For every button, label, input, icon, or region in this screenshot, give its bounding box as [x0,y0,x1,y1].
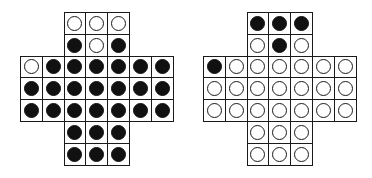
filled-peg-icon [89,81,104,96]
filled-peg-icon [24,103,39,118]
filled-peg-icon [111,103,126,118]
filled-peg-icon [111,147,126,162]
board-cell [151,77,174,100]
board-cell [247,143,270,166]
empty-hole-icon [229,59,244,74]
empty-hole-icon [250,125,265,140]
empty-hole-icon [338,81,353,96]
board-cell [85,34,108,57]
board-cell [268,121,291,144]
empty-hole-icon [294,38,309,53]
filled-peg-icon [67,147,82,162]
board-cell [203,56,226,79]
board-cell [247,12,270,35]
filled-peg-icon [155,59,170,74]
empty-hole-icon [294,103,309,118]
board-cell [107,34,130,57]
empty-hole-icon [272,147,287,162]
board-cell [107,12,130,35]
board-cell [290,12,313,35]
empty-hole-icon [338,59,353,74]
filled-peg-icon [89,125,104,140]
board-cell [129,56,152,79]
board-cell [225,99,248,122]
board-cell [151,99,174,122]
filled-peg-icon [67,81,82,96]
board-cell [290,56,313,79]
filled-peg-icon [111,125,126,140]
board-cell [290,99,313,122]
board-cell [225,77,248,100]
filled-peg-icon [89,147,104,162]
filled-peg-icon [133,103,148,118]
board-cell [64,34,87,57]
empty-hole-icon [24,59,39,74]
empty-hole-icon [250,147,265,162]
board-cell [268,34,291,57]
filled-peg-icon [207,59,222,74]
empty-hole-icon [316,103,331,118]
board-cell [64,99,87,122]
board-cell [312,56,335,79]
empty-hole-icon [250,38,265,53]
filled-peg-icon [67,59,82,74]
empty-hole-icon [89,38,104,53]
filled-peg-icon [111,38,126,53]
board-cell [334,56,357,79]
filled-peg-icon [67,103,82,118]
empty-hole-icon [250,59,265,74]
filled-peg-icon [46,59,61,74]
empty-hole-icon [67,16,82,31]
board-cell [203,99,226,122]
filled-peg-icon [67,38,82,53]
board-cell [42,77,65,100]
empty-hole-icon [294,147,309,162]
board-cell [203,77,226,100]
empty-hole-icon [229,81,244,96]
filled-peg-icon [67,125,82,140]
empty-hole-icon [294,81,309,96]
board-cell [268,99,291,122]
board-cell [85,99,108,122]
board-cell [107,56,130,79]
board-cell [85,121,108,144]
empty-hole-icon [207,81,222,96]
board-cell [129,77,152,100]
empty-hole-icon [294,59,309,74]
board-cell [290,34,313,57]
board-cell [247,34,270,57]
board-cell [247,121,270,144]
board-cell [20,99,43,122]
board-cell [64,121,87,144]
board-cell [290,143,313,166]
board-cell [225,56,248,79]
board-cell [268,12,291,35]
board-cell [107,121,130,144]
empty-hole-icon [272,81,287,96]
board-cell [85,143,108,166]
filled-peg-icon [133,59,148,74]
board-cell [85,77,108,100]
board-cell [42,56,65,79]
filled-peg-icon [111,59,126,74]
board-cell [290,77,313,100]
board-cell [64,143,87,166]
board-cell [85,12,108,35]
empty-hole-icon [272,125,287,140]
filled-peg-icon [46,81,61,96]
filled-peg-icon [89,59,104,74]
empty-hole-icon [250,81,265,96]
board-cell [64,12,87,35]
filled-peg-icon [155,81,170,96]
board-cell [85,56,108,79]
filled-peg-icon [24,81,39,96]
board-cell [107,143,130,166]
board-cell [129,99,152,122]
board-cell [64,77,87,100]
board-cell [42,99,65,122]
board-cell [268,56,291,79]
board-cell [20,56,43,79]
board-cell [107,77,130,100]
filled-peg-icon [250,16,265,31]
empty-hole-icon [89,16,104,31]
